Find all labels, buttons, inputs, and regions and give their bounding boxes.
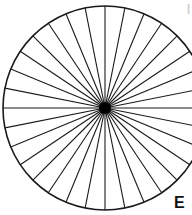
spoke-29 (33, 36, 105, 108)
spoked-circle-figure (0, 0, 192, 215)
diagram-page: E | (0, 0, 192, 215)
spoke-5 (105, 36, 177, 108)
center-hub (99, 102, 111, 114)
spoke-10 (105, 108, 192, 128)
spoke-21 (33, 108, 105, 180)
figure-letter-label: E (174, 195, 185, 211)
spoke-8 (105, 88, 192, 108)
spoke-13 (105, 108, 177, 180)
corner-artifact-mark: | (187, 3, 191, 14)
